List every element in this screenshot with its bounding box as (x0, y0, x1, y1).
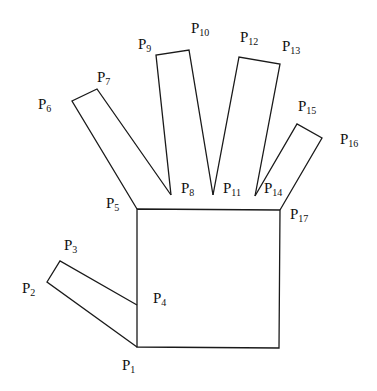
hand-outline (47, 50, 322, 348)
hand-polygon-diagram: P1P2P3P4P5P6P7P8P9P10P11P12P13P14P15P16P… (0, 0, 377, 391)
label-p16: P16 (340, 131, 358, 149)
label-p3: P3 (64, 237, 77, 255)
label-p6: P6 (38, 96, 51, 114)
label-p14: P14 (264, 180, 282, 198)
label-p17: P17 (290, 206, 308, 224)
palm-rectangle (137, 209, 280, 348)
label-p1: P1 (122, 357, 135, 375)
label-p2: P2 (22, 280, 35, 298)
label-p13: P13 (282, 38, 300, 56)
label-p7: P7 (97, 69, 110, 87)
label-p5: P5 (106, 195, 119, 213)
vertex-labels: P1P2P3P4P5P6P7P8P9P10P11P12P13P14P15P16P… (22, 20, 358, 375)
label-p11: P11 (223, 180, 241, 198)
finger-3-polygon (213, 57, 280, 196)
label-p15: P15 (298, 98, 316, 116)
finger-4-polygon (255, 124, 322, 210)
label-p9: P9 (138, 36, 151, 54)
finger-2-polygon (156, 50, 213, 195)
label-p12: P12 (240, 29, 258, 47)
label-p8: P8 (181, 180, 194, 198)
label-p10: P10 (191, 20, 209, 38)
label-p4: P4 (153, 290, 166, 308)
finger-1-polygon (72, 89, 171, 209)
thumb-polygon (47, 261, 137, 347)
